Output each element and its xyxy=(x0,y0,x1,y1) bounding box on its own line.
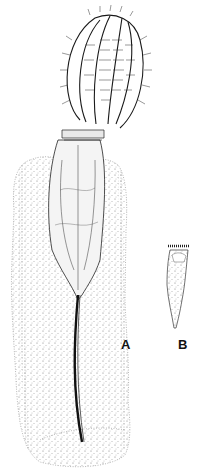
label-a: A xyxy=(121,337,130,352)
illustration-drawing xyxy=(0,0,208,472)
tentacle-crown xyxy=(60,5,152,128)
specimen-b xyxy=(167,246,190,328)
figure: A B xyxy=(0,0,208,472)
label-b: B xyxy=(178,337,187,352)
